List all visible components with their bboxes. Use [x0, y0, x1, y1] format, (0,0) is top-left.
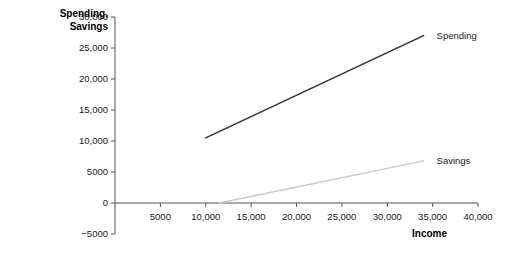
y-tick-label: 25,000	[46, 42, 108, 53]
x-axis-title: Income	[412, 228, 492, 241]
x-tick-label: 40,000	[448, 211, 508, 222]
y-tick-label: 20,000	[46, 73, 108, 84]
y-tick-label: −5000	[46, 228, 108, 239]
y-tick-label: 0	[46, 197, 108, 208]
axes-group	[115, 17, 478, 234]
data-line-savings	[219, 161, 423, 203]
data-series-group	[206, 36, 424, 203]
chart-container: Spending, Savings Income 30,00025,00020,…	[0, 0, 523, 254]
x-axis-ticks	[160, 203, 478, 207]
series-label-spending: Spending	[437, 30, 477, 41]
data-line-spending	[206, 36, 424, 138]
y-tick-label: 5000	[46, 166, 108, 177]
y-tick-label: 10,000	[46, 135, 108, 146]
series-label-savings: Savings	[437, 155, 471, 166]
y-axis-ticks	[111, 17, 115, 234]
y-tick-label: 30,000	[46, 11, 108, 22]
y-tick-label: 15,000	[46, 104, 108, 115]
